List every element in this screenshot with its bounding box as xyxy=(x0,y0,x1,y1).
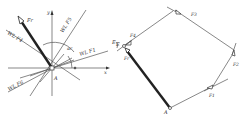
resultant-fr xyxy=(21,21,52,68)
right-figure xyxy=(117,7,236,110)
label-f4: F4 xyxy=(129,33,136,38)
label-x: x xyxy=(104,69,107,75)
f2-arrowhead-icon xyxy=(232,50,235,56)
segment-f4 xyxy=(125,11,173,45)
label-f2: F2 xyxy=(232,62,239,67)
label-wl-f4: WL F4 xyxy=(7,30,24,44)
f4-arrowhead-icon xyxy=(126,41,131,45)
resultant-fr-right xyxy=(127,51,170,108)
point-a xyxy=(169,107,172,110)
point-e xyxy=(123,45,126,48)
label-e-right: E xyxy=(115,41,120,47)
force-diagram: Fr y x A αr E WL F5 WL F4 WL F1 WL F6 A … xyxy=(0,0,246,115)
y-axis-arrow-icon xyxy=(51,10,54,15)
label-f3: F3 xyxy=(190,12,197,17)
label-y: y xyxy=(46,9,50,16)
label-alpha: αr xyxy=(67,46,73,51)
label-wl-f6: WL F6 xyxy=(7,78,25,92)
label-wl-f5: WL F5 xyxy=(59,16,73,33)
segment-f3 xyxy=(175,10,234,50)
label-a-right: A xyxy=(163,109,168,115)
origin-marker xyxy=(50,66,54,70)
line-wl-f5 xyxy=(30,10,86,96)
line-wl-f1 xyxy=(20,51,108,78)
f1-arrowhead-icon xyxy=(207,85,213,89)
marker-dot xyxy=(74,67,76,69)
f3-arrowhead-icon xyxy=(176,10,181,14)
label-fr-left: Fr xyxy=(26,17,33,23)
segment-f1 xyxy=(170,86,213,108)
label-fr-right: Fr xyxy=(123,56,130,61)
label-f1: F1 xyxy=(208,93,215,98)
label-a-left: A xyxy=(53,75,58,81)
